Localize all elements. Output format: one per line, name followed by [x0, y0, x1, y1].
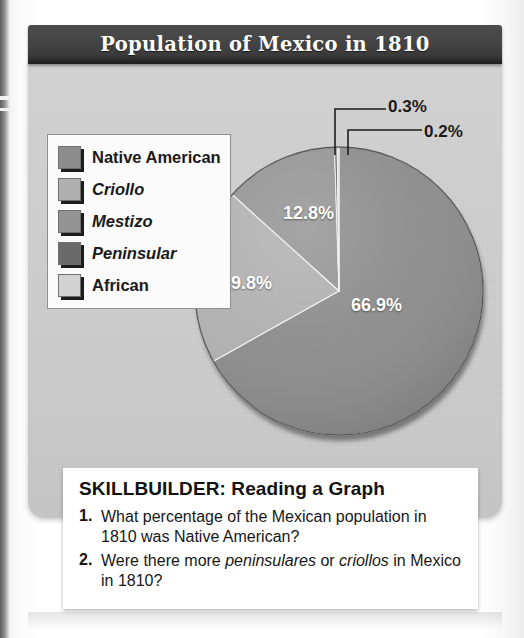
page-bottom-shadow — [28, 612, 502, 630]
callout-peninsular: 0.3% — [388, 97, 427, 117]
legend-swatch-mestizo — [58, 210, 81, 233]
skillbuilder-question-1: 1. What percentage of the Mexican popula… — [79, 507, 464, 548]
chart-title-bar: Population of Mexico in 1810 — [28, 25, 502, 64]
legend-label-african: African — [92, 276, 149, 295]
figure-page: Population of Mexico in 1810 Native Amer… — [0, 0, 524, 638]
legend-label-criollo: Criollo — [92, 180, 144, 199]
callout-african: 0.2% — [424, 122, 463, 142]
pie-label-native-american: 66.9% — [351, 295, 402, 316]
legend-item-native-american: Native American — [48, 141, 230, 173]
question-text-2: Were there more peninsulares or criollos… — [101, 551, 464, 592]
legend-swatch-criollo — [58, 178, 81, 201]
skillbuilder-box: SKILLBUILDER: Reading a Graph 1. What pe… — [63, 468, 478, 609]
legend-item-african: African — [48, 269, 230, 301]
legend-item-peninsular: Peninsular — [48, 237, 230, 269]
question-number-2: 2. — [79, 551, 101, 569]
chart-legend: Native American Criollo Mestizo Peninsul… — [47, 134, 231, 309]
pie-label-mestizo: 12.8% — [283, 203, 334, 224]
legend-item-criollo: Criollo — [48, 173, 230, 205]
legend-swatch-native-american — [58, 146, 81, 169]
page-edge-nick-top — [0, 96, 9, 100]
page-edge-nick-bottom — [0, 108, 9, 111]
pie-chart: 66.9% 19.8% 12.8% — [193, 145, 485, 437]
legend-label-native-american: Native American — [92, 148, 221, 167]
question-number-1: 1. — [79, 507, 101, 525]
legend-swatch-african — [58, 274, 81, 297]
skillbuilder-heading: SKILLBUILDER: Reading a Graph — [79, 478, 464, 500]
chart-title: Population of Mexico in 1810 — [100, 33, 429, 56]
legend-swatch-peninsular — [58, 242, 81, 265]
legend-item-mestizo: Mestizo — [48, 205, 230, 237]
legend-label-mestizo: Mestizo — [92, 212, 153, 231]
skillbuilder-question-2: 2. Were there more peninsulares or criol… — [79, 551, 464, 592]
question-text-1: What percentage of the Mexican populatio… — [101, 507, 464, 548]
legend-label-peninsular: Peninsular — [92, 244, 176, 263]
